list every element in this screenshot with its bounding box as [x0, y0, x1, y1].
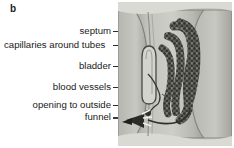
nephridium-drawing	[118, 2, 232, 146]
label-funnel: funnel	[85, 112, 111, 123]
label-opening-to-outside: opening to outside	[33, 100, 111, 111]
label-bladder: bladder	[79, 61, 111, 72]
figure-panel-b: b septum capillaries around tubes bladde…	[0, 0, 234, 148]
label-blood-vessels: blood vessels	[53, 82, 111, 93]
panel-letter: b	[10, 3, 16, 14]
nephridium-illustration	[118, 2, 232, 146]
label-capillaries-around-tubes: capillaries around tubes	[4, 40, 108, 51]
label-septum: septum	[80, 26, 111, 37]
